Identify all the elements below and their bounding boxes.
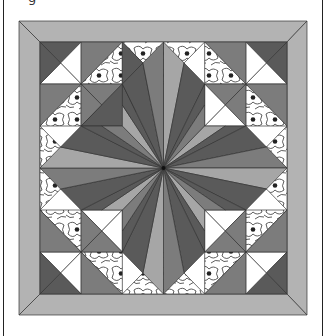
border-left [19, 21, 40, 315]
border-top [19, 21, 307, 42]
border-right [287, 21, 307, 315]
quilt-pattern [0, 0, 329, 336]
border-bottom [19, 294, 307, 315]
star-center [162, 166, 166, 170]
